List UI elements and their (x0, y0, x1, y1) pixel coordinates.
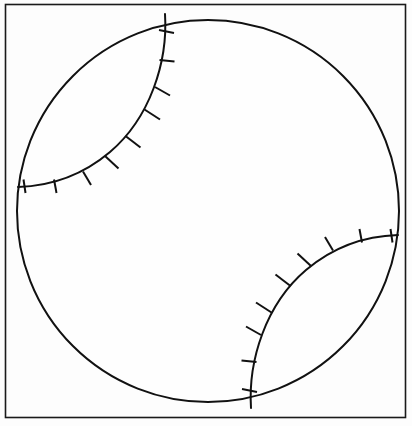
drawing-canvas (0, 0, 412, 426)
baseball-outline (17, 20, 399, 402)
baseball-figure (0, 0, 412, 426)
